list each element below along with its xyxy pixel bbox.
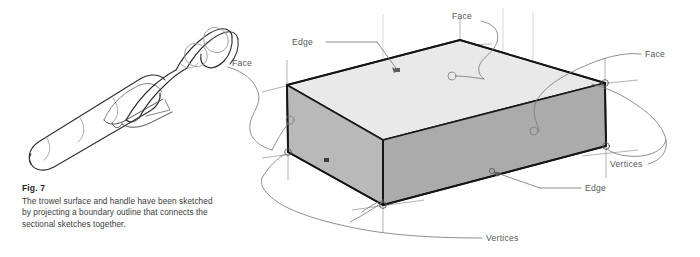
annotation-vertices-right: Vertices <box>610 159 643 169</box>
annotation-edge-top: Edge <box>292 37 313 47</box>
figure-caption-text: The trowel surface and handle have been … <box>22 196 217 230</box>
trowel-sketch <box>29 22 238 170</box>
edge-left-marker <box>324 158 329 162</box>
annotation-face-left: Face <box>232 58 252 68</box>
edge-top-marker <box>395 68 400 72</box>
figure-number-label: Fig. 7 <box>22 183 217 194</box>
leader-edge-bottom-d <box>494 172 540 188</box>
annotation-vertices-bottom: Vertices <box>486 233 519 243</box>
leader-face-left <box>228 67 272 150</box>
figure-caption-block: Fig. 7 The trowel surface and handle hav… <box>22 183 217 230</box>
figure-page: Face Edge Face Face Vertices Edge Vertic… <box>0 0 700 257</box>
box-faces <box>287 40 606 205</box>
annotation-face-top: Face <box>452 11 472 21</box>
annotation-face-right: Face <box>645 49 665 59</box>
annotation-edge-bottom: Edge <box>585 183 606 193</box>
